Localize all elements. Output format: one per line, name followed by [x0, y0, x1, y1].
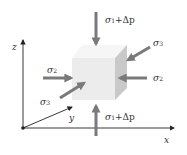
bottom-load-label: σ1+Δp — [105, 112, 135, 122]
top-load-label: σ1+Δp — [105, 15, 135, 25]
right-load-label: σ2 — [153, 73, 163, 83]
x-axis-label: x — [164, 135, 169, 145]
diagram-svg: z x y σ1+Δp σ1+Δp σ2 σ2 σ3 σ3 — [0, 0, 187, 155]
left-load-label: σ2 — [47, 65, 57, 75]
y-axis-label: y — [68, 113, 75, 123]
y-axis — [23, 107, 72, 128]
cube-element — [72, 45, 127, 100]
cube-front-face — [72, 58, 115, 100]
back-load-label: σ3 — [153, 38, 163, 48]
origin-dot — [21, 126, 25, 130]
stress-diagram: z x y σ1+Δp σ1+Δp σ2 σ2 σ3 σ3 — [0, 0, 187, 155]
z-axis-label: z — [11, 42, 17, 52]
back-load-arrow — [128, 47, 150, 60]
front-load-label: σ3 — [40, 97, 50, 107]
